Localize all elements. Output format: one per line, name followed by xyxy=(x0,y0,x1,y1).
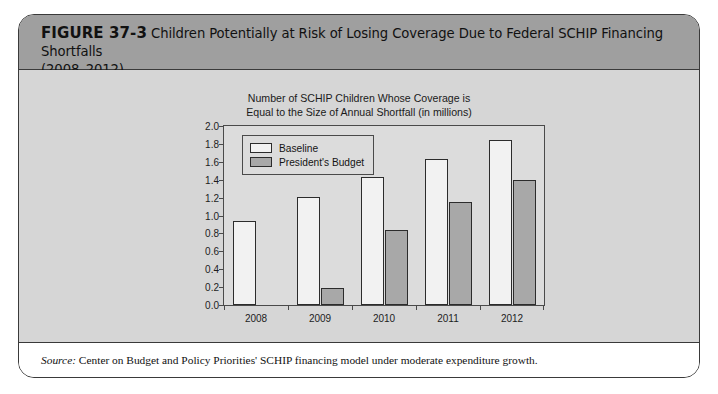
x-axis-tick-mark xyxy=(416,305,417,310)
legend-item-presidents-budget: President's Budget xyxy=(250,155,364,169)
y-axis-tick-mark xyxy=(219,162,224,163)
y-axis-tick-mark xyxy=(219,287,224,288)
x-axis-tick-mark xyxy=(543,305,544,310)
bar-2012-presidents-budget xyxy=(513,180,536,305)
bar-2012-baseline xyxy=(489,140,512,305)
y-axis-tick-label: 0.6 xyxy=(205,246,219,257)
source-body: Center on Budget and Policy Priorities' … xyxy=(76,354,538,366)
y-axis-tick-label: 0.2 xyxy=(205,282,219,293)
source-label: Source: xyxy=(41,354,76,366)
y-axis-tick-mark xyxy=(219,269,224,270)
legend-swatch-icon xyxy=(250,157,272,167)
y-axis-tick-label: 0.0 xyxy=(205,300,219,311)
bar-2009-baseline xyxy=(297,197,320,305)
chart-title-line-2: Equal to the Size of Annual Shortfall (i… xyxy=(19,106,699,120)
figure-number: FIGURE 37-3 xyxy=(41,24,147,42)
source-band: Source: Center on Budget and Policy Prio… xyxy=(19,342,699,377)
bar-2010-baseline xyxy=(361,177,384,305)
y-axis-tick-label: 1.8 xyxy=(205,138,219,149)
bar-2009-presidents-budget xyxy=(321,288,344,305)
plot-area: 0.00.20.40.60.81.01.21.41.61.82.0 200820… xyxy=(223,125,545,306)
chart-plate: Number of SCHIP Children Whose Coverage … xyxy=(19,70,699,342)
bar-2011-baseline xyxy=(425,159,448,305)
chart-title-line-1: Number of SCHIP Children Whose Coverage … xyxy=(19,92,699,106)
y-axis-tick-mark xyxy=(219,233,224,234)
y-axis-tick-mark xyxy=(219,180,224,181)
legend-label: Baseline xyxy=(279,143,318,154)
x-axis-tick-label: 2009 xyxy=(309,313,331,324)
bar-2010-presidents-budget xyxy=(385,230,408,305)
y-axis-tick-label: 0.8 xyxy=(205,228,219,239)
x-axis-tick-mark xyxy=(224,305,225,310)
legend-swatch-icon xyxy=(250,143,272,153)
figure-card: FIGURE 37-3 Children Potentially at Risk… xyxy=(18,14,700,378)
figure-header-line-1: FIGURE 37-3 Children Potentially at Risk… xyxy=(41,24,677,61)
bar-2008-baseline xyxy=(233,221,256,305)
chart-title: Number of SCHIP Children Whose Coverage … xyxy=(19,92,699,119)
y-axis-tick-mark xyxy=(219,126,224,127)
y-axis-tick-label: 1.2 xyxy=(205,192,219,203)
y-axis-tick-mark xyxy=(219,198,224,199)
x-axis-tick-label: 2008 xyxy=(245,313,267,324)
y-axis-tick-mark xyxy=(219,144,224,145)
figure-header: FIGURE 37-3 Children Potentially at Risk… xyxy=(19,15,699,70)
y-axis-tick-mark xyxy=(219,216,224,217)
y-axis-tick-label: 1.0 xyxy=(205,210,219,221)
x-axis-tick-mark xyxy=(288,305,289,310)
y-axis-tick-mark xyxy=(219,251,224,252)
source-note: Source: Center on Budget and Policy Prio… xyxy=(41,353,677,367)
x-axis-tick-mark xyxy=(352,305,353,310)
y-axis-tick-label: 0.4 xyxy=(205,264,219,275)
x-axis-tick-mark xyxy=(480,305,481,310)
chart-legend: BaselinePresident's Budget xyxy=(242,135,374,175)
x-axis-tick-label: 2010 xyxy=(373,313,395,324)
y-axis-tick-label: 1.4 xyxy=(205,174,219,185)
y-axis-tick-label: 2.0 xyxy=(205,121,219,132)
legend-item-baseline: Baseline xyxy=(250,141,364,155)
legend-label: President's Budget xyxy=(279,157,364,168)
y-axis-tick-label: 1.6 xyxy=(205,156,219,167)
x-axis-tick-label: 2012 xyxy=(501,313,523,324)
x-axis-tick-label: 2011 xyxy=(437,313,459,324)
bar-2011-presidents-budget xyxy=(449,202,472,305)
